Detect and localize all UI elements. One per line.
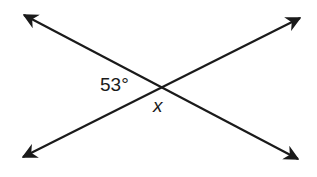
unknown-angle-label: x [153,95,163,117]
intersecting-lines-diagram [0,0,317,177]
angle-label: 53° [100,74,129,96]
line-ascending [23,18,300,157]
